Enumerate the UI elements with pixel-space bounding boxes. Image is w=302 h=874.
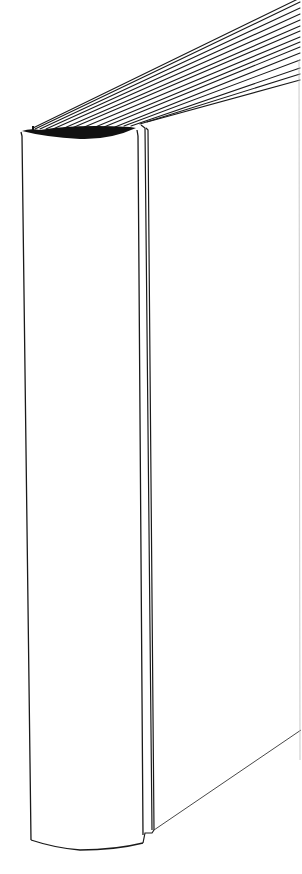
book-illustration [0, 0, 302, 874]
spine [21, 130, 143, 850]
page-edges [33, 0, 300, 129]
bottom-board-edge [154, 60, 301, 830]
headband [22, 126, 136, 139]
back-cover-edge [141, 125, 154, 843]
